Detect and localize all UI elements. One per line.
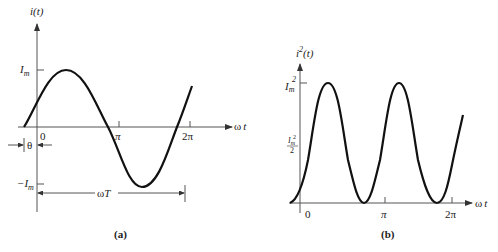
a-x-axis-label: ωt	[234, 120, 247, 132]
b-squared-curve	[290, 83, 463, 203]
svg-text:2: 2	[290, 146, 294, 155]
a-y-axis-label: i(t)	[30, 5, 44, 18]
b-x-axis-label: ωt	[475, 197, 488, 209]
figure: i(t) Im −Im 0 π 2π ωt θ	[0, 0, 498, 252]
a-period-dimension: ωT	[38, 185, 185, 202]
b-caption: (b)	[381, 228, 395, 241]
a-label-2pi: 2π	[182, 130, 194, 142]
b-label-zero: 0	[305, 208, 311, 220]
b-label-pi: π	[381, 208, 387, 220]
panel-a: i(t) Im −Im 0 π 2π ωt θ	[8, 5, 247, 241]
a-caption: (a)	[114, 228, 127, 241]
a-label-pi: π	[115, 130, 121, 142]
b-label-im2-sup: 2	[292, 75, 296, 84]
b-label-half-im2: Im 2 2	[287, 134, 298, 155]
a-label-theta: θ	[27, 139, 32, 151]
a-label-zero: 0	[40, 130, 46, 142]
a-label-neg-im: −Im	[17, 177, 34, 192]
svg-text:2: 2	[293, 134, 296, 140]
a-sine-curve	[24, 70, 192, 187]
a-label-im: Im	[19, 63, 30, 78]
panel-b: i2(t) Im 2 Im 2 2 0 π 2π ωt (b)	[284, 45, 488, 241]
b-y-axis-label: i2(t)	[296, 45, 314, 60]
a-label-omega-t: ωT	[97, 187, 111, 199]
b-label-2pi: 2π	[445, 208, 457, 220]
